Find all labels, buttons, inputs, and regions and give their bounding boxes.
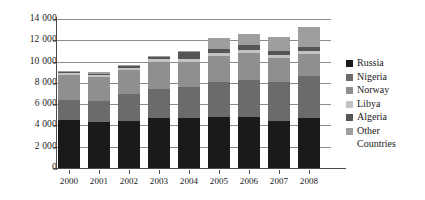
legend-swatch-icon — [346, 128, 353, 135]
legend-item-label: Nigeria — [357, 71, 387, 83]
bar-segment — [118, 94, 140, 122]
bar-segment — [208, 38, 230, 48]
x-axis-tick-label: 2001 — [82, 176, 116, 186]
bar-segment — [268, 58, 290, 82]
y-axis-tick-label: 14 000 — [5, 14, 57, 24]
plot-area — [57, 19, 331, 168]
legend-swatch-icon — [346, 87, 353, 94]
bar[interactable] — [148, 56, 170, 168]
x-axis-tick-label: 2006 — [232, 176, 266, 186]
bar-segment — [118, 121, 140, 168]
x-axis-tick-label: 2000 — [52, 176, 86, 186]
bar-segment — [238, 80, 260, 117]
bar-segment — [238, 34, 260, 45]
bar-segment — [208, 82, 230, 117]
legend-item[interactable]: Nigeria — [346, 71, 425, 83]
bar-segment — [268, 121, 290, 168]
bar-segment — [238, 117, 260, 168]
legend-item-label: Other — [357, 125, 380, 137]
bar-segment — [178, 118, 200, 168]
bar-segment — [58, 100, 80, 120]
x-axis-tick — [69, 170, 70, 174]
y-axis-tick-label: 10 000 — [5, 57, 57, 67]
y-axis-tick-label: 6 000 — [5, 99, 57, 109]
bar-segment — [58, 75, 80, 100]
bar-segment — [148, 118, 170, 168]
bar-segment — [178, 52, 200, 59]
legend-swatch-icon — [346, 74, 353, 81]
y-axis-tick-label: 12 000 — [5, 35, 57, 45]
bar[interactable] — [178, 51, 200, 168]
bar-segment — [88, 101, 110, 123]
x-axis-tick — [99, 170, 100, 174]
bar[interactable] — [298, 27, 320, 169]
x-axis-tick — [249, 170, 250, 174]
legend-item-label: Libya — [357, 98, 380, 110]
legend-item[interactable]: Russia — [346, 57, 425, 69]
bar[interactable] — [238, 34, 260, 168]
x-axis-tick-label: 2004 — [172, 176, 206, 186]
legend-swatch-icon — [346, 60, 353, 67]
x-axis-tick — [279, 170, 280, 174]
x-axis-tick-label: 2002 — [112, 176, 146, 186]
legend-item-label: Russia — [357, 57, 384, 69]
x-axis-tick — [219, 170, 220, 174]
legend-item[interactable]: Libya — [346, 98, 425, 110]
bar-segment — [178, 87, 200, 118]
x-axis-tick — [189, 170, 190, 174]
bar-segment — [298, 27, 320, 48]
bar-segment — [298, 54, 320, 76]
bar-segment — [148, 62, 170, 89]
stacked-bar-chart: 02 0004 0006 0008 00010 00012 00014 000 … — [0, 0, 425, 200]
bar-segment — [178, 62, 200, 87]
x-axis-tick-label: 2003 — [142, 176, 176, 186]
chart-legend: RussiaNigeriaNorwayLibyaAlgeriaOtherCoun… — [346, 57, 425, 150]
legend-item[interactable]: Algeria — [346, 111, 425, 123]
x-axis-tick — [309, 170, 310, 174]
bar[interactable] — [118, 65, 140, 168]
bar-segment — [148, 89, 170, 118]
bar-segment — [298, 76, 320, 118]
x-axis-tick — [159, 170, 160, 174]
x-axis-line — [56, 168, 346, 169]
x-axis-tick-label: 2008 — [292, 176, 326, 186]
bar-segment — [208, 56, 230, 82]
legend-item-label: Algeria — [357, 111, 387, 123]
gridline — [57, 19, 331, 20]
x-axis-tick — [129, 170, 130, 174]
legend-item-label-line2: Countries — [357, 138, 425, 150]
legend-swatch-icon — [346, 101, 353, 108]
bar[interactable] — [58, 71, 80, 168]
bar-segment — [238, 53, 260, 80]
bar-segment — [268, 82, 290, 121]
y-axis-tick-label: 8 000 — [5, 78, 57, 88]
y-axis-tick-label: 2 000 — [5, 142, 57, 152]
bar-segment — [208, 117, 230, 168]
bar[interactable] — [208, 38, 230, 168]
y-axis-tick-label: 4 000 — [5, 120, 57, 130]
bar[interactable] — [268, 37, 290, 168]
x-axis-tick-label: 2005 — [202, 176, 236, 186]
x-axis: 200020012002200320042005200620072008 — [0, 170, 425, 192]
bar-segment — [268, 37, 290, 51]
bar-segment — [298, 118, 320, 168]
bar-segment — [118, 70, 140, 94]
legend-swatch-icon — [346, 114, 353, 121]
bar-segment — [88, 122, 110, 168]
legend-item[interactable]: Other — [346, 125, 425, 137]
x-axis-tick-label: 2007 — [262, 176, 296, 186]
bar-segment — [58, 120, 80, 168]
legend-item[interactable]: Norway — [346, 84, 425, 96]
legend-item-label: Norway — [357, 84, 389, 96]
bar[interactable] — [88, 72, 110, 168]
bar-segment — [88, 77, 110, 101]
